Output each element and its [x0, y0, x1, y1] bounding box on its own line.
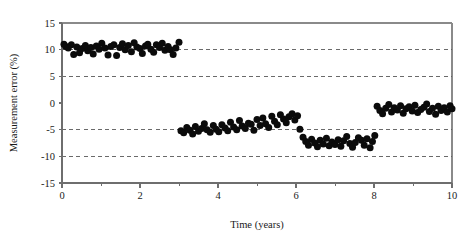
data-point — [423, 101, 430, 108]
data-point — [170, 51, 177, 58]
data-point — [113, 52, 120, 59]
data-point — [70, 51, 77, 58]
data-point — [296, 126, 303, 133]
data-points-group — [60, 39, 455, 152]
y-tick-label--10: -10 — [41, 151, 55, 162]
x-tick-label-8: 8 — [371, 190, 376, 201]
x-tick-label-10: 10 — [447, 190, 458, 201]
data-point — [105, 52, 112, 59]
y-tick-label-5: 5 — [50, 71, 55, 82]
data-point — [250, 127, 257, 134]
y-tick-label-10: 10 — [45, 44, 56, 55]
data-point — [343, 133, 350, 140]
data-point — [265, 124, 272, 131]
y-tick-label--5: -5 — [46, 124, 55, 135]
data-point — [150, 49, 157, 56]
x-tick-label-2: 2 — [137, 190, 142, 201]
data-point — [215, 128, 222, 135]
gridlines-group — [62, 50, 452, 157]
x-tick-label-0: 0 — [59, 190, 64, 201]
y-tick-label-15: 15 — [45, 18, 56, 29]
x-tick-label-6: 6 — [293, 190, 298, 201]
data-point — [367, 144, 374, 151]
x-axis-title: Time (years) — [230, 219, 284, 231]
y-tick-label--15: -15 — [41, 178, 55, 189]
data-point — [101, 45, 108, 52]
y-axis-title: Measurement error (%) — [8, 53, 20, 152]
data-point — [90, 50, 97, 57]
y-tick-label-0: 0 — [50, 98, 55, 109]
scatter-plot: 151050-5-10-15 0246810 Measurement error… — [0, 0, 470, 240]
data-point — [411, 102, 418, 109]
data-point — [128, 48, 135, 55]
x-axis-tick-labels: 0246810 — [59, 190, 457, 201]
data-point — [224, 127, 231, 134]
x-axis-ticks-group — [62, 183, 452, 188]
data-point — [294, 112, 301, 119]
data-point — [371, 132, 378, 139]
data-point — [449, 105, 456, 112]
data-point — [139, 50, 146, 57]
figure-container: 151050-5-10-15 0246810 Measurement error… — [0, 0, 470, 240]
x-tick-label-4: 4 — [215, 190, 221, 201]
data-point — [176, 39, 183, 46]
y-axis-tick-labels: 151050-5-10-15 — [41, 18, 55, 189]
data-point — [274, 121, 281, 128]
